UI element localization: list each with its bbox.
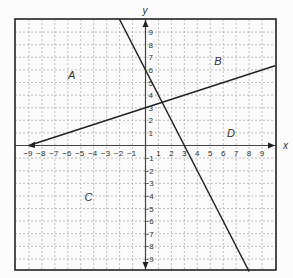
y-tick-label: 7 bbox=[149, 53, 154, 62]
x-tick-label: −7 bbox=[49, 149, 59, 158]
x-tick-label: 9 bbox=[260, 149, 265, 158]
region-label-c: C bbox=[85, 191, 93, 203]
y-tick-label: 6 bbox=[149, 66, 154, 75]
y-tick-label: −7 bbox=[145, 230, 155, 239]
x-tick-label: −6 bbox=[62, 149, 72, 158]
x-tick-label: −5 bbox=[75, 149, 85, 158]
region-label-a: A bbox=[67, 69, 75, 81]
y-tick-label: −1 bbox=[145, 154, 155, 163]
y-axis-label: y bbox=[142, 5, 149, 16]
region-label-d: D bbox=[227, 127, 235, 139]
x-axis-arrow-icon bbox=[268, 143, 275, 149]
y-tick-label: −6 bbox=[145, 217, 155, 226]
x-tick-label: 2 bbox=[169, 149, 174, 158]
region-label-b: B bbox=[214, 55, 221, 67]
x-tick-label: 6 bbox=[221, 149, 226, 158]
x-tick-label: 7 bbox=[234, 149, 239, 158]
x-tick-label: 8 bbox=[247, 149, 252, 158]
coordinate-plane: xy −9−8−7−6−5−4−3−2−1123456789987654321−… bbox=[0, 0, 293, 278]
x-tick-label: −1 bbox=[127, 149, 137, 158]
x-tick-label: 4 bbox=[195, 149, 200, 158]
y-tick-label: 2 bbox=[149, 116, 154, 125]
y-tick-label: −8 bbox=[145, 242, 155, 251]
y-tick-label: 4 bbox=[149, 91, 154, 100]
x-tick-label: −3 bbox=[101, 149, 111, 158]
x-tick-label: −2 bbox=[114, 149, 124, 158]
y-tick-label: −4 bbox=[145, 192, 155, 201]
y-tick-label: −5 bbox=[145, 205, 155, 214]
y-tick-label: −9 bbox=[145, 255, 155, 264]
y-tick-label: 9 bbox=[149, 28, 154, 37]
x-axis-label: x bbox=[282, 140, 289, 151]
x-tick-label: −4 bbox=[88, 149, 98, 158]
y-tick-label: 1 bbox=[149, 129, 154, 138]
y-axis-arrow-up-icon bbox=[143, 20, 149, 27]
y-tick-label: −2 bbox=[145, 167, 155, 176]
x-tick-label: −9 bbox=[23, 149, 33, 158]
x-tick-label: 1 bbox=[156, 149, 161, 158]
x-tick-label: −8 bbox=[36, 149, 46, 158]
x-tick-label: 5 bbox=[208, 149, 213, 158]
y-tick-label: 8 bbox=[149, 41, 154, 50]
y-tick-label: −3 bbox=[145, 179, 155, 188]
